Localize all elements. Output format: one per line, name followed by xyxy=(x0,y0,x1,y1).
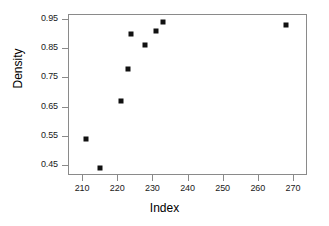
x-axis-tick-label: 230 xyxy=(132,184,172,193)
x-axis-title: Index xyxy=(0,202,329,215)
x-axis-tick xyxy=(117,175,118,181)
data-point xyxy=(160,20,165,25)
x-axis-tick xyxy=(152,175,153,181)
x-axis-tick xyxy=(82,175,83,181)
x-axis-tick-label: 250 xyxy=(203,184,243,193)
y-axis-title: Density xyxy=(12,19,25,119)
data-point xyxy=(153,28,158,33)
data-point xyxy=(143,43,148,48)
x-axis-tick-label: 240 xyxy=(168,184,208,193)
plot-area xyxy=(68,14,307,175)
x-axis-tick xyxy=(293,175,294,181)
data-point xyxy=(283,23,288,28)
x-axis-tick-label: 220 xyxy=(97,184,137,193)
data-point xyxy=(83,136,88,141)
scatter-plot-figure: 0.450.550.650.750.850.95 210220230240250… xyxy=(0,0,329,226)
y-axis-tick xyxy=(62,136,68,137)
data-point xyxy=(118,98,123,103)
y-axis-tick-label: 0.45 xyxy=(18,160,58,169)
y-axis-tick xyxy=(62,19,68,20)
y-axis-tick xyxy=(62,165,68,166)
x-axis-tick xyxy=(223,175,224,181)
y-axis-tick xyxy=(62,77,68,78)
x-axis-tick xyxy=(188,175,189,181)
data-point xyxy=(125,66,130,71)
y-axis-tick xyxy=(62,107,68,108)
y-axis-tick xyxy=(62,48,68,49)
x-axis-tick xyxy=(258,175,259,181)
data-point xyxy=(97,165,102,170)
y-axis-tick-label: 0.55 xyxy=(18,131,58,140)
x-axis-tick-label: 270 xyxy=(273,184,313,193)
data-point xyxy=(129,31,134,36)
x-axis-tick-label: 210 xyxy=(62,184,102,193)
x-axis-tick-label: 260 xyxy=(238,184,278,193)
